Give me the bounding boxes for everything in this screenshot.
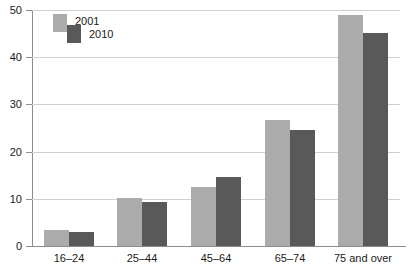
bar-2010: [69, 232, 94, 246]
bar-2001: [338, 15, 363, 246]
y-axis-tick-label: 0: [0, 241, 22, 252]
legend-swatch-2010: [67, 25, 81, 43]
y-axis-tick-label: 30: [0, 99, 22, 110]
bar-2010: [216, 177, 241, 246]
bar-2001: [117, 198, 142, 246]
legend-swatch-2001: [53, 14, 67, 32]
y-axis-tick-label: 50: [0, 5, 22, 16]
bar-2001: [44, 230, 69, 246]
y-axis-tick-label: 20: [0, 147, 22, 158]
y-tick-mark: [26, 246, 32, 247]
bar-2001: [191, 187, 216, 246]
legend-label-2010: 2010: [89, 29, 113, 40]
bar-2010: [142, 202, 167, 246]
bar-2010: [290, 130, 315, 246]
y-axis-tick-label: 40: [0, 52, 22, 63]
y-axis-tick-label: 10: [0, 194, 22, 205]
bar-2001: [265, 120, 290, 246]
x-axis-line: [26, 246, 406, 247]
legend: 2001 2010: [53, 14, 173, 46]
bar-chart: 01020304050 16–2425–4445–6465–7475 and o…: [0, 0, 420, 276]
bar-2010: [363, 33, 388, 246]
x-axis-tick-label: 75 and over: [318, 252, 408, 265]
